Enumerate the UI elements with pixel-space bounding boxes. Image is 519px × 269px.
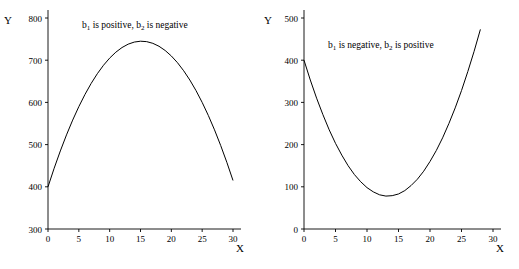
x-tick-label: 5	[77, 234, 82, 244]
chart-left-x-axis-label: X	[236, 242, 244, 254]
x-tick-label: 15	[394, 234, 404, 244]
x-tick-label: 0	[302, 234, 307, 244]
y-tick-label: 400	[285, 56, 299, 66]
y-tick-label: 200	[285, 140, 299, 150]
data-curve	[48, 41, 233, 187]
y-tick-label: 300	[29, 225, 43, 235]
x-tick-label: 20	[167, 234, 177, 244]
chart-panel-left: 300400500600700800051015202530 Y X b1 is…	[0, 0, 259, 269]
y-tick-label: 700	[29, 56, 43, 66]
y-tick-label: 800	[29, 14, 43, 24]
figure-container: 300400500600700800051015202530 Y X b1 is…	[0, 0, 519, 269]
chart-left-annotation: b1 is positive, b2 is negative	[82, 20, 188, 30]
x-tick-label: 20	[426, 234, 436, 244]
chart-right-annotation: b1 is negative, b2 is positive	[328, 40, 434, 50]
y-tick-label: 100	[285, 182, 299, 192]
y-tick-label: 300	[285, 98, 299, 108]
chart-right-y-axis-label: Y	[264, 14, 272, 26]
x-tick-label: 10	[363, 234, 373, 244]
chart-right-x-axis-label: X	[496, 242, 504, 254]
x-tick-label: 25	[457, 234, 467, 244]
x-tick-label: 10	[105, 234, 115, 244]
x-tick-label: 5	[333, 234, 338, 244]
x-tick-label: 15	[136, 234, 146, 244]
y-tick-label: 500	[285, 14, 299, 24]
x-tick-label: 0	[46, 234, 51, 244]
chart-left-plot: 300400500600700800051015202530	[0, 0, 259, 269]
y-tick-label: 0	[294, 225, 299, 235]
y-tick-label: 500	[29, 140, 43, 150]
chart-left-y-axis-label: Y	[4, 14, 12, 26]
data-curve	[304, 29, 480, 196]
x-tick-label: 25	[198, 234, 208, 244]
y-tick-label: 600	[29, 98, 43, 108]
chart-panel-right: 0100200300400500051015202530 Y X b1 is n…	[260, 0, 519, 269]
y-tick-label: 400	[29, 182, 43, 192]
